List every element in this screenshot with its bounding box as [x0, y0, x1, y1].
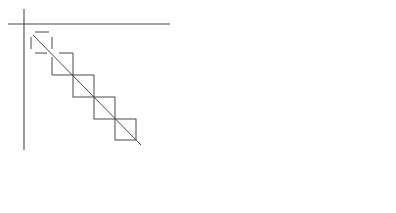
diagonal-line [33, 35, 141, 145]
cayley-grid-lines [31, 32, 141, 145]
figure-6-44 [8, 9, 170, 150]
